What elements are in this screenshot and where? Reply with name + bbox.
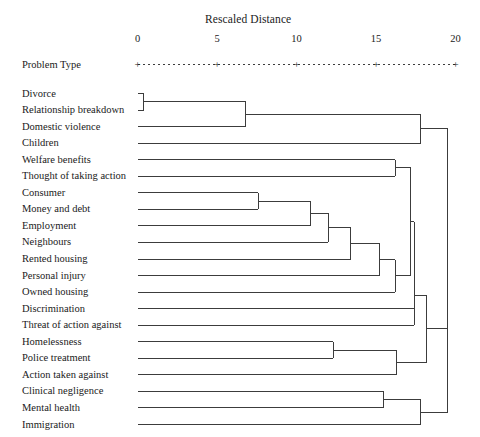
dendrogram-tree [0,0,480,437]
tree-link-group [138,94,448,425]
dendrogram-figure: Rescaled Distance 05101520 Problem Type … [0,0,480,437]
